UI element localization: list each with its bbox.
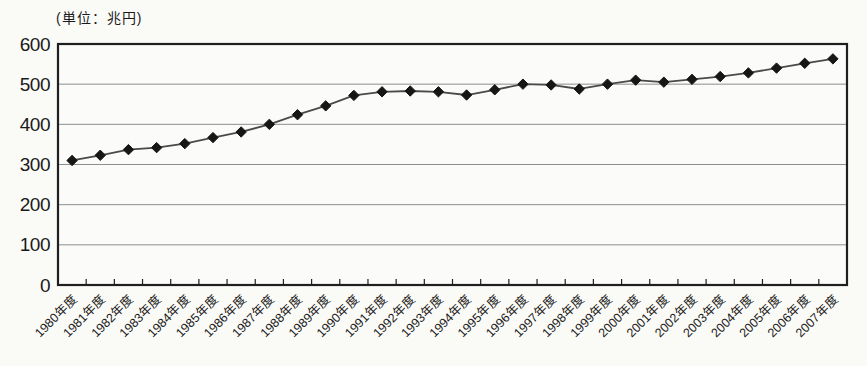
y-axis-label-500: 500 <box>20 74 50 95</box>
y-axis-label-0: 0 <box>40 275 50 296</box>
line-chart: 01002003004005006001980年度1981年度1982年度198… <box>0 0 867 366</box>
y-axis-label-600: 600 <box>20 34 50 55</box>
scanned-chart-page: (単位：兆円) 01002003004005006001980年度1981年度1… <box>0 0 867 366</box>
y-axis-label-100: 100 <box>20 234 50 255</box>
y-axis-label-200: 200 <box>20 194 50 215</box>
y-axis-label-400: 400 <box>20 114 50 135</box>
y-axis-label-300: 300 <box>20 154 50 175</box>
